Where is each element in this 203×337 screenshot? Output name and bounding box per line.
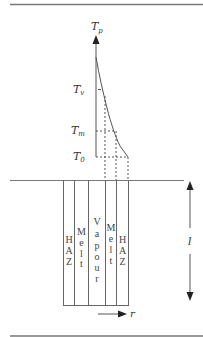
svg-text:p: p [95, 240, 100, 251]
zone-melt-left: M e l t [77, 226, 86, 269]
zone-melt-right: M e l t [107, 222, 116, 266]
svg-text:H: H [65, 234, 72, 245]
svg-text:r: r [95, 273, 99, 284]
temperature-curve [96, 57, 128, 157]
svg-text:t: t [110, 255, 113, 266]
svg-text:M: M [107, 222, 116, 233]
radial-arrow: r [98, 308, 136, 319]
axis-label: Tp [91, 20, 103, 35]
radial-label: r [130, 308, 136, 319]
zone-haz-left: H A Z [65, 234, 73, 267]
svg-text:A: A [65, 245, 73, 256]
zone-vapour: V a p o u r [93, 216, 101, 284]
arrow-right-icon [118, 311, 127, 318]
level-label-t0: T0 [73, 150, 85, 164]
arrow-up-icon [187, 181, 194, 190]
level-label-tv: Tv [73, 83, 84, 97]
svg-text:u: u [95, 262, 100, 273]
svg-text:t: t [80, 258, 83, 269]
svg-text:H: H [119, 234, 126, 245]
temperature-axis: Tp [91, 20, 103, 157]
axis-arrow-icon [93, 35, 100, 44]
zone-haz-right: H A Z [119, 234, 127, 267]
svg-text:M: M [77, 226, 86, 237]
depth-arrow: l [187, 181, 194, 301]
svg-text:l: l [110, 244, 113, 255]
svg-text:e: e [109, 233, 114, 244]
svg-text:Z: Z [66, 256, 72, 267]
arrow-down-icon [187, 292, 194, 301]
depth-label: l [188, 235, 192, 248]
svg-text:a: a [95, 228, 100, 239]
svg-text:V: V [93, 216, 101, 227]
level-label-tm: Tm [71, 124, 85, 138]
svg-text:Z: Z [119, 256, 125, 267]
diagram-canvas: Tp Tv Tm T0 H A Z M e [0, 0, 203, 337]
svg-text:e: e [79, 237, 84, 248]
dashed-guides [96, 96, 128, 180]
svg-text:A: A [119, 245, 127, 256]
svg-text:o: o [95, 251, 100, 262]
